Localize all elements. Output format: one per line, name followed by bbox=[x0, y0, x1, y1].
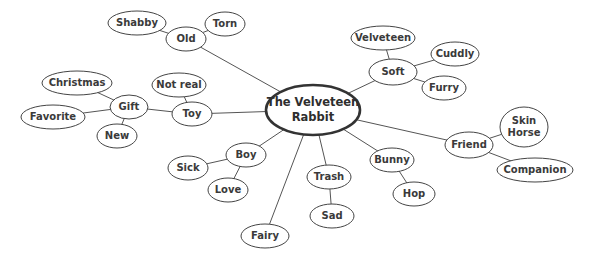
node-shabby-ellipse bbox=[108, 11, 166, 35]
node-love-ellipse bbox=[208, 178, 248, 202]
node-sad-ellipse bbox=[310, 204, 354, 228]
node-gift-ellipse bbox=[110, 95, 148, 119]
node-sick-ellipse bbox=[168, 156, 208, 180]
node-layer bbox=[21, 11, 573, 248]
node-boy-ellipse bbox=[226, 143, 266, 167]
node-hop-ellipse bbox=[393, 182, 435, 206]
node-new-ellipse bbox=[97, 124, 137, 148]
node-velveteen-ellipse bbox=[351, 26, 415, 50]
node-trash-ellipse bbox=[307, 165, 351, 189]
node-skinhorse-ellipse bbox=[500, 107, 548, 147]
node-bunny-ellipse bbox=[370, 148, 414, 172]
node-fairy-ellipse bbox=[241, 224, 289, 248]
node-notreal-ellipse bbox=[152, 73, 206, 97]
node-friend-ellipse bbox=[445, 132, 493, 158]
node-favorite-ellipse bbox=[21, 105, 85, 129]
node-toy-ellipse bbox=[172, 102, 212, 126]
node-torn-ellipse bbox=[205, 12, 245, 36]
mind-map-diagram: The Velveteen RabbitOldShabbyTornSoftVel… bbox=[0, 0, 596, 261]
node-christmas-ellipse bbox=[42, 71, 112, 95]
node-cuddly-ellipse bbox=[431, 42, 479, 66]
node-furry-ellipse bbox=[422, 76, 466, 100]
node-companion-ellipse bbox=[497, 158, 573, 182]
mind-map-canvas bbox=[0, 0, 596, 261]
node-old-ellipse bbox=[166, 27, 206, 51]
node-root-ellipse bbox=[266, 85, 360, 135]
node-soft-ellipse bbox=[369, 59, 417, 85]
